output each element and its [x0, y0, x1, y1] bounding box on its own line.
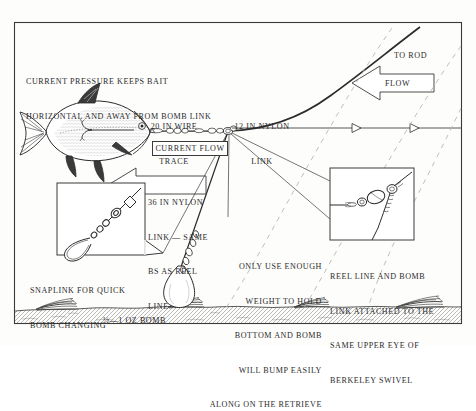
current-flow-box: CURRENT FLOW — [152, 141, 228, 156]
to-rod-label: TO ROD — [394, 50, 427, 62]
weight-advice-line2: WEIGHT TO HOLD — [200, 296, 322, 308]
weight-advice-note: ONLY USE ENOUGH WEIGHT TO HOLD BOTTOM AN… — [200, 238, 322, 411]
nylon-link-36-line3: BS AS REEL — [148, 266, 208, 278]
swivel-note-line4: BERKELEY SWIVEL — [330, 375, 434, 387]
nylon-link-36-line4: LINE — [148, 301, 208, 313]
weight-advice-line1: ONLY USE ENOUGH — [200, 261, 322, 273]
nylon-link-12-label: 12 IN NYLON LINK — [231, 98, 293, 190]
swivel-detail-callout — [330, 168, 414, 240]
wire-trace-line2: TRACE — [143, 156, 205, 168]
swivel-note-line2: LINK ATTACHED TO THE — [330, 306, 434, 318]
nylon-link-36-note: 36 IN NYLON LINK — SAME BS AS REEL LINE — [148, 174, 208, 335]
nylon-link-36-line2: LINK — SAME — [148, 232, 208, 244]
swivel-note-line1: REEL LINE AND BOMB — [330, 271, 434, 283]
flow-arrow-label: FLOW — [385, 78, 410, 90]
bomb-weight-label: ½—1 OZ BOMB — [103, 315, 166, 327]
nylon-link-12-line2: LINK — [231, 156, 293, 168]
weight-advice-line3: BOTTOM AND BOMB — [200, 330, 322, 342]
snaplink-line1: SNAPLINK FOR QUICK — [30, 285, 125, 297]
current-pressure-line1: CURRENT PRESSURE KEEPS BAIT — [26, 76, 211, 88]
snaplink-note: SNAPLINK FOR QUICK BOMB CHANGING — [30, 262, 125, 354]
weight-advice-line5: ALONG ON THE RETRIEVE — [200, 399, 322, 411]
swivel-note-line3: SAME UPPER EYE OF — [330, 340, 434, 352]
nylon-link-36-line1: 36 IN NYLON — [148, 197, 208, 209]
nylon-link-12-line1: 12 IN NYLON — [231, 121, 293, 133]
weight-advice-line4: WILL BUMP EASILY — [200, 365, 322, 377]
swivel-note: REEL LINE AND BOMB LINK ATTACHED TO THE … — [330, 248, 434, 409]
wire-trace-line1: 20 IN WIRE — [143, 121, 205, 133]
